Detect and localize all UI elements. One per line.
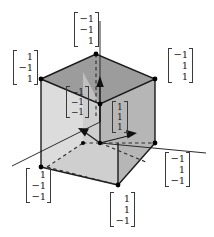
vector-entry: −1 (19, 62, 33, 73)
vector-entries: −1 1 −1 (169, 152, 186, 187)
vector-entry: −1 (71, 97, 84, 107)
bracket-right (95, 12, 99, 47)
vertex-dot-hidden-back-bottom (81, 141, 85, 145)
vector-entry: −1 (171, 153, 185, 164)
vector-entry: 1 (32, 169, 46, 180)
vector-label-right-top: −1 1 1 (168, 48, 193, 83)
vertex-dot-center (98, 141, 102, 145)
vector-label-inner-right: 1 1 1 (112, 101, 128, 133)
vector-label-bottom-left: 1 −1 −1 (26, 168, 51, 203)
bracket-right (189, 48, 193, 83)
vector-label-top-back: −1 −1 1 (74, 12, 99, 47)
vector-entry: −1 (71, 107, 84, 117)
figure-canvas: −1 −1 1 1 −1 1 −1 1 1 −1 −1 −1 (0, 0, 214, 237)
vector-entry: −1 (171, 175, 185, 186)
bracket-right (47, 168, 51, 203)
vector-entry: 1 (117, 112, 123, 122)
vertex-dot-right-top (153, 77, 158, 82)
vector-entry: −1 (80, 13, 94, 24)
vector-entries: 1 −1 −1 (30, 168, 47, 203)
vector-entry: −1 (32, 180, 46, 191)
vector-entry: 1 (19, 51, 33, 62)
vector-label-left-top: 1 −1 1 (13, 50, 38, 85)
bracket-right (34, 50, 38, 85)
vector-entry: 1 (80, 35, 94, 46)
vector-label-bottom-right: −1 1 −1 (165, 152, 190, 187)
vector-entries: 1 1 1 (116, 101, 125, 133)
bracket-right (131, 192, 135, 227)
bracket-right (186, 152, 190, 187)
vector-entries: −1 −1 1 (78, 12, 95, 47)
vector-label-bottom-center: 1 1 −1 (110, 192, 135, 227)
vector-entries: −1 1 1 (172, 48, 189, 83)
vector-entry: 1 (117, 102, 123, 112)
vertex-dot-front-top (98, 102, 103, 107)
vertex-dot-right-bottom (153, 141, 158, 146)
vector-entry: 1 (174, 71, 188, 82)
vector-entry: 1 (116, 204, 130, 215)
vector-entry: 1 (117, 122, 123, 132)
vector-entries: 1 1 −1 (114, 192, 131, 227)
vector-entries: 1 −1 1 (17, 50, 34, 85)
vector-entry: 1 (174, 60, 188, 71)
vector-entries: −1 −1 −1 (70, 86, 86, 118)
vector-entry: −1 (116, 215, 130, 226)
vector-label-inner-left: −1 −1 −1 (66, 86, 89, 118)
vertex-dot-left-top (39, 77, 44, 82)
vector-entry: 1 (171, 164, 185, 175)
vector-entry: −1 (71, 87, 84, 97)
vector-entry: −1 (174, 49, 188, 60)
bracket-right (124, 101, 128, 133)
vector-entry: 1 (116, 193, 130, 204)
bracket-right (85, 86, 89, 118)
vector-entry: −1 (80, 24, 94, 35)
vector-entry: 1 (19, 73, 33, 84)
vertex-dot-front-bottom (116, 183, 121, 188)
vector-entry: −1 (32, 191, 46, 202)
vertex-dot-back-top (94, 52, 99, 57)
